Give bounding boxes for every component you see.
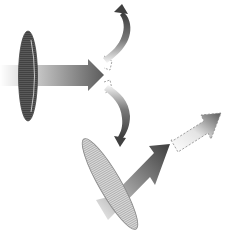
disc-rotation-diagram	[0, 0, 226, 232]
dashed-continuation-arrow	[171, 113, 221, 152]
top-beam-arrow	[0, 59, 104, 91]
top-disc	[19, 31, 38, 121]
curved-arrow-down-icon	[104, 85, 130, 147]
curved-arrow-up-icon	[103, 4, 130, 63]
